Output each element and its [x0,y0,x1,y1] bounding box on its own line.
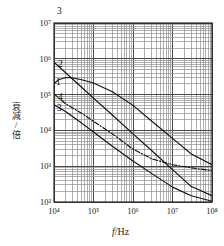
x-tick-label-2: 10⁶ [127,206,138,216]
curve-label-1-inline: 1 [56,77,61,87]
curve-label-4-inline: 4 [58,92,63,102]
chart-figure: 衰减/倍 f/Hz 3 10²10³10⁴10⁵10⁶10⁷10⁴10⁵10⁶1… [0,0,224,246]
x-tick-label-3: 10⁷ [167,206,178,216]
y-tick-label-0: 10² [24,197,51,207]
y-tick-label-4: 10⁶ [24,54,51,64]
x-tick-label-4: 10⁸ [206,206,217,216]
x-tick-label-1: 10⁵ [88,206,99,216]
y-tick-label-1: 10³ [24,161,51,171]
y-tick-label-5: 10⁷ [24,18,51,28]
plot-canvas [0,0,224,246]
x-tick-label-0: 10⁴ [48,206,59,216]
grid-lines [54,23,212,202]
curve-label-2-inline: 2 [58,59,63,69]
curve-label-3-inline: 3 [57,103,62,113]
y-tick-label-2: 10⁴ [24,125,51,135]
y-tick-label-3: 10⁵ [24,90,51,100]
